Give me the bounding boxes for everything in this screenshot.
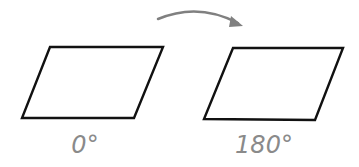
parallelogram-original — [22, 47, 163, 118]
label-180-degrees: 180° — [235, 133, 293, 157]
diagram-graphics — [0, 0, 359, 167]
label-0-degrees: 0° — [71, 133, 98, 157]
rotation-diagram: 0° 180° — [0, 0, 359, 167]
parallelogram-rotated — [204, 48, 343, 120]
rotation-arrow-icon — [158, 11, 243, 27]
